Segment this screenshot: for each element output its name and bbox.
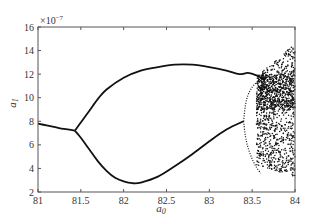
x-tick-label: 83.5 (243, 195, 261, 206)
chaotic-region (256, 47, 296, 177)
y-tick-label: 16 (24, 22, 34, 33)
y-tick-label: 8 (29, 116, 34, 127)
plot-area (38, 47, 296, 184)
y-tick-label: 2 (29, 187, 34, 198)
series-lower-branch (75, 121, 244, 183)
series-single-branch (38, 124, 75, 131)
y-tick-label: 10 (24, 92, 34, 103)
y-tick-label: 6 (29, 139, 34, 150)
x-tick-label: 81.5 (72, 195, 90, 206)
x-axis-ticks: 8181.58282.58383.584 (33, 27, 300, 206)
x-tick-label: 82 (119, 195, 129, 206)
x-tick-label: 83 (204, 195, 214, 206)
y-tick-label: 14 (24, 45, 34, 56)
y-axis-label: a1 (6, 98, 20, 108)
series-upper-branch (75, 64, 265, 130)
x-tick-label: 81 (33, 195, 43, 206)
x-tick-label: 84 (290, 195, 300, 206)
y-tick-label: 4 (29, 163, 34, 174)
bifurcation-chart: 8181.58282.58383.584 246810121416 ×10−7 … (0, 0, 315, 224)
y-scale-annotation: ×10−7 (40, 14, 64, 26)
y-tick-label: 12 (24, 69, 34, 80)
